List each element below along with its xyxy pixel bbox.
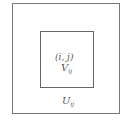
inner-region-label: Vij <box>61 63 72 76</box>
outer-region-label: Uij <box>62 96 74 109</box>
point-label: (i, j) <box>55 52 73 62</box>
